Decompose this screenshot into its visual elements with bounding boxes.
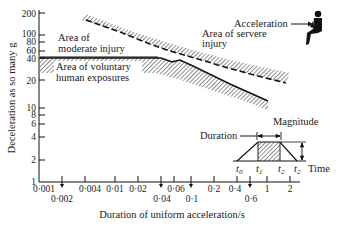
y-tick-label: 6 <box>31 119 36 129</box>
severe-injury-label-line2: injury <box>202 38 228 49</box>
y-tick-label: 200 <box>22 9 37 19</box>
duration-label: Duration <box>200 130 238 141</box>
x-tick-label: 1 <box>265 184 270 194</box>
x-tick-label: 0·01 <box>106 184 124 194</box>
x-tick-label: 0·002 <box>51 194 73 204</box>
y-tick-label: 20 <box>27 76 37 86</box>
magnitude-label: Magnitude <box>273 116 319 127</box>
y-tick-label: 40 <box>27 54 37 64</box>
acceleration-label: Acceleration <box>234 18 288 29</box>
acceleration-tolerance-chart: 200 100 80 60 40 20 10 8 6 4 2 1 0·001 0… <box>0 0 343 226</box>
moderate-injury-label-line1: Area of <box>58 32 90 43</box>
t2-sub: 2 <box>281 168 285 176</box>
x-axis-title: Duration of uniform acceleration/s <box>99 209 245 220</box>
x-tick-label: 0·004 <box>79 184 101 194</box>
x-tick-labels: 0·001 0·002 0·004 0·01 0·02 0·04 0·06 0·… <box>33 184 293 204</box>
time-label: Time <box>308 163 330 174</box>
x-tick-label: 0·2 <box>208 184 221 194</box>
seated-person-icon <box>306 11 322 45</box>
x-tick-label: 0·6 <box>245 194 258 204</box>
x-tick-label: 0·04 <box>153 194 171 204</box>
y-ticks <box>39 13 45 160</box>
y-axis-title: Deceleration as so many g <box>6 42 17 154</box>
t1-sub: 1 <box>259 168 263 176</box>
magnitude-dimension <box>301 143 304 160</box>
voluntary-label-line1: Area of voluntary <box>56 61 131 72</box>
svg-text:t2: t2 <box>278 163 285 176</box>
x-tick-label: 0·06 <box>167 184 185 194</box>
y-tick-label: 2 <box>31 155 36 165</box>
svg-text:t1: t1 <box>256 163 262 176</box>
y-tick-label: 4 <box>31 132 36 142</box>
y-tick-labels: 200 100 80 60 40 20 10 8 6 4 2 1 <box>22 9 37 187</box>
moderate-injury-label-line2: moderate injury <box>58 43 126 54</box>
voluntary-label-line2: human exposures <box>56 72 129 83</box>
x-tick-label: 0·001 <box>33 184 55 194</box>
x-tick-label: 0·4 <box>229 184 242 194</box>
pulse-shape <box>233 142 306 161</box>
acceleration-arrow <box>291 22 313 27</box>
duration-dimension <box>257 132 281 140</box>
x-tick-label: 2 <box>288 184 293 194</box>
svg-text:t0: t0 <box>236 163 243 176</box>
x-tick-label: 0·1 <box>186 194 199 204</box>
time-labels: t0 t1 t2 t2 Time <box>236 163 330 176</box>
x-tick-label: 0·02 <box>129 184 147 194</box>
t2-sub-end: 2 <box>297 168 301 176</box>
t0-sub: 0 <box>239 168 243 176</box>
svg-text:t2: t2 <box>294 163 301 176</box>
